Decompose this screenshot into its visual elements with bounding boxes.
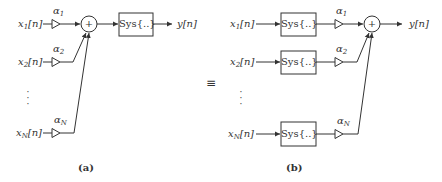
input-label-a1: x1[n] bbox=[18, 19, 42, 31]
output-label-a: y[n] bbox=[177, 19, 197, 29]
gain-triangle-b1 bbox=[335, 20, 343, 29]
system-label-b1: Sys{..} bbox=[281, 19, 316, 29]
diagram-b-wiring bbox=[256, 13, 402, 146]
system-label-bN: Sys{..} bbox=[281, 129, 316, 139]
gain-triangle-b2 bbox=[335, 58, 343, 67]
ellipsis-b: ··· bbox=[238, 89, 244, 107]
caption-a: (a) bbox=[78, 163, 94, 173]
input-label-bN: xN[n] bbox=[228, 129, 254, 141]
system-label-a: Sys{..} bbox=[119, 19, 153, 29]
gain-triangle-a2 bbox=[52, 58, 60, 67]
input-label-aN: xN[n] bbox=[16, 128, 42, 140]
ellipsis-a: ··· bbox=[25, 89, 31, 107]
gain-label-b2: α2 bbox=[336, 44, 347, 56]
sum-symbol-b: + bbox=[367, 19, 377, 29]
system-label-b2: Sys{..} bbox=[281, 57, 316, 67]
gain-label-bN: αN bbox=[337, 116, 350, 128]
sum-symbol-a: + bbox=[84, 19, 94, 29]
input-label-a2: x2[n] bbox=[18, 57, 42, 69]
gain-triangle-bN bbox=[335, 130, 343, 139]
gain-label-aN: αN bbox=[54, 115, 67, 127]
input-label-b2: x2[n] bbox=[230, 57, 254, 69]
gain-label-a2: α2 bbox=[53, 44, 64, 56]
caption-b: (b) bbox=[286, 163, 302, 173]
gain-triangle-a1 bbox=[52, 20, 60, 29]
gain-label-a1: α1 bbox=[53, 6, 64, 18]
input-label-b1: x1[n] bbox=[230, 19, 254, 31]
output-label-b: y[n] bbox=[409, 19, 429, 29]
equivalence-symbol: ≡ bbox=[206, 77, 216, 89]
gain-label-b1: α1 bbox=[336, 6, 347, 18]
gain-triangle-aN bbox=[52, 129, 60, 138]
